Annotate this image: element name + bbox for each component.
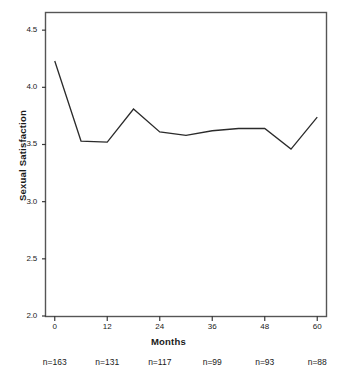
y-tick-label: 4.0 xyxy=(11,82,37,91)
chart-figure: Sexual Satisfaction Months 2.02.53.03.54… xyxy=(0,0,337,377)
x-tick-label: 48 xyxy=(253,322,277,331)
plot-border xyxy=(46,13,327,317)
x-tick-label: 36 xyxy=(200,322,224,331)
sample-size-label: n=131 xyxy=(85,357,129,367)
data-series-line xyxy=(55,61,318,149)
y-tick-label: 2.5 xyxy=(11,254,37,263)
x-tick-label: 12 xyxy=(95,322,119,331)
x-tick-label: 0 xyxy=(43,322,67,331)
sample-size-label: n=117 xyxy=(138,357,182,367)
sample-size-label: n=163 xyxy=(33,357,77,367)
sample-size-label: n=88 xyxy=(295,357,337,367)
sample-size-label: n=93 xyxy=(243,357,287,367)
y-tick-label: 3.0 xyxy=(11,197,37,206)
x-tick-label: 60 xyxy=(305,322,329,331)
y-tick-label: 2.0 xyxy=(11,311,37,320)
y-tick-label: 3.5 xyxy=(11,139,37,148)
y-tick-label: 4.5 xyxy=(11,25,37,34)
sample-size-label: n=99 xyxy=(190,357,234,367)
line-plot xyxy=(0,0,337,377)
x-tick-label: 24 xyxy=(148,322,172,331)
